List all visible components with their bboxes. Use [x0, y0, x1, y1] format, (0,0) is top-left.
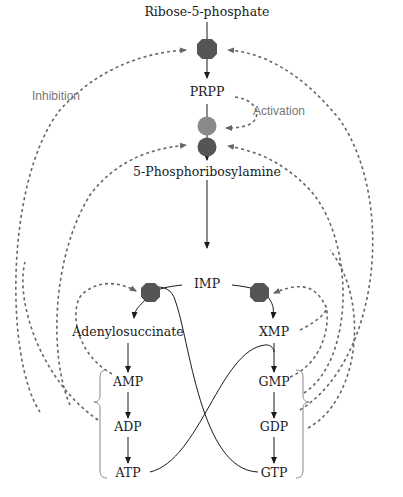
amidotransferase-inhibition-circle-icon	[198, 138, 217, 157]
feedback-gdp-arc	[308, 250, 355, 428]
label-activation: Activation	[253, 104, 305, 118]
cofactor-gtp-to-adenylosuccinate-synthetase	[152, 287, 258, 472]
node-prpp: PRPP	[190, 84, 225, 99]
prpp-synthetase-octagon-icon	[197, 39, 217, 59]
feedback-guanine-to-amidotransferase	[228, 146, 343, 393]
node-xmp: XMP	[259, 324, 289, 339]
adenylosuccinate-synthetase-octagon-icon	[141, 283, 160, 302]
cofactor-atp-to-gmp-synthetase	[150, 345, 274, 472]
purine-pathway-diagram: Ribose-5-phosphate PRPP 5-Phosphoribosyl…	[0, 0, 403, 497]
node-gdp: GDP	[260, 419, 288, 434]
node-adenylosuccinate: Adenylosuccinate	[71, 324, 183, 339]
node-gtp: GTP	[261, 465, 288, 480]
node-amp: AMP	[112, 374, 143, 389]
node-5-phosphoribosylamine: 5-Phosphoribosylamine	[133, 164, 281, 179]
feedback-adenine-to-amidotransferase	[57, 145, 186, 405]
node-ribose-5-phosphate: Ribose-5-phosphate	[144, 4, 269, 19]
node-atp: ATP	[114, 465, 140, 480]
node-imp: IMP	[194, 276, 220, 291]
label-inhibition: Inhibition	[32, 89, 80, 103]
amidotransferase-activation-circle-icon	[198, 117, 217, 136]
brace-adenine-nucleotides	[94, 370, 107, 478]
feedback-xmp-dash	[300, 305, 326, 330]
imp-dehydrogenase-octagon-icon	[250, 283, 269, 302]
node-gmp: GMP	[258, 374, 289, 389]
node-adp: ADP	[113, 419, 141, 434]
feedback-adenine-to-prpp-synthetase	[16, 50, 186, 412]
brace-guanine-nucleotides	[296, 370, 309, 478]
